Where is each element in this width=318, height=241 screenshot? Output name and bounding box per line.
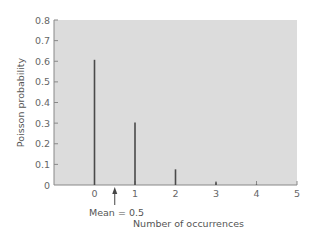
y-axis-title: Poisson probability — [15, 57, 26, 147]
x-tick-label: 3 — [213, 188, 219, 199]
x-tick-label: 0 — [91, 188, 97, 199]
y-tick-label: 0.4 — [35, 97, 50, 108]
x-tick-label: 1 — [132, 188, 138, 199]
y-tick-label: 0.5 — [35, 76, 50, 87]
x-tick-label: 2 — [172, 188, 178, 199]
mean-label: Mean = 0.5 — [89, 207, 144, 218]
x-tick-label: 4 — [253, 188, 259, 199]
y-tick-label: 0 — [44, 180, 50, 191]
y-tick-label: 0.7 — [35, 35, 50, 46]
y-tick-label: 0.6 — [35, 56, 50, 67]
y-tick-label: 0.1 — [35, 159, 50, 170]
plot-area — [54, 20, 297, 185]
y-axis: 00.10.20.30.40.50.60.70.8 — [35, 15, 58, 191]
arrow-head-icon — [112, 187, 117, 194]
poisson-chart: 00.10.20.30.40.50.60.70.8 012345 Mean = … — [0, 0, 318, 241]
x-axis-title: Number of occurrences — [133, 218, 244, 229]
y-tick-label: 0.3 — [35, 118, 50, 129]
y-tick-label: 0.8 — [35, 15, 50, 26]
x-tick-label: 5 — [294, 188, 300, 199]
y-tick-label: 0.2 — [35, 138, 50, 149]
